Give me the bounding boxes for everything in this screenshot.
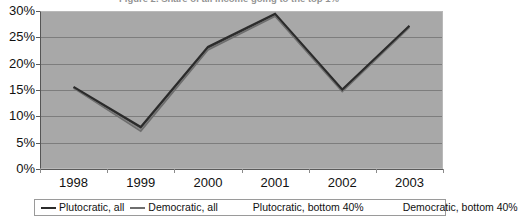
legend-item[interactable]: Plutocratic, bottom 40%	[232, 202, 364, 213]
x-axis-tick-mark	[443, 169, 444, 173]
x-axis-tick-label: 2001	[245, 175, 305, 190]
legend-item[interactable]: Democratic, all	[125, 202, 217, 213]
legend-item[interactable]: Plutocratic, all	[36, 202, 124, 213]
x-axis-tick-label: 1998	[44, 175, 104, 190]
y-axis-tick-label: 0%	[0, 162, 35, 175]
legend-swatch-line-icon	[242, 207, 250, 209]
legend-swatch-line-icon	[41, 207, 56, 209]
legend-item-label: Democratic, all	[148, 202, 217, 213]
x-axis-tick-label: 2003	[379, 175, 439, 190]
x-axis-tick-mark	[242, 169, 243, 173]
x-axis-tick-mark	[174, 169, 175, 173]
x-axis-tick-mark	[309, 169, 310, 173]
x-axis-tick-label: 2002	[312, 175, 372, 190]
legend-item-label: Democratic, bottom 40%	[403, 202, 518, 213]
chart-legend: Plutocratic, allDemocratic, allPlutocrat…	[34, 199, 446, 216]
x-axis-tick-label: 2000	[178, 175, 238, 190]
x-axis-tick-mark	[40, 169, 41, 173]
legend-item-label: Plutocratic, bottom 40%	[253, 202, 364, 213]
y-axis-tick-label: 30%	[0, 4, 35, 17]
series-line	[74, 14, 410, 127]
x-axis-tick-label: 1999	[111, 175, 171, 190]
y-axis-tick-label: 25%	[0, 30, 35, 43]
x-axis-tick-mark	[107, 169, 108, 173]
y-axis-tick-label: 15%	[0, 83, 35, 96]
legend-item-label: Plutocratic, all	[59, 202, 124, 213]
y-axis-tick-label: 5%	[0, 136, 35, 149]
series-lines	[40, 11, 443, 169]
legend-item[interactable]: Democratic, bottom 40%	[382, 202, 518, 213]
y-axis-tick-label: 10%	[0, 109, 35, 122]
x-axis-tick-mark	[376, 169, 377, 173]
y-axis-tick-label: 20%	[0, 57, 35, 70]
legend-swatch-line-icon	[130, 207, 145, 209]
series-line	[74, 15, 410, 128]
legend-swatch-line-icon	[392, 207, 400, 209]
